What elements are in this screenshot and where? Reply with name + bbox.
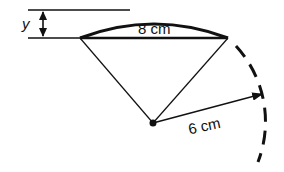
height-double-arrow-icon: [39, 11, 47, 37]
radius-right: [153, 38, 228, 123]
center-point: [150, 120, 157, 127]
radius-label: 6 cm: [187, 114, 222, 137]
radius-left: [80, 38, 153, 123]
circle-segment-diagram: y 8 cm 6 cm: [0, 0, 284, 172]
chord-label: 8 cm: [138, 20, 171, 37]
height-label: y: [21, 15, 31, 32]
dashed-circle-arc: [236, 46, 265, 162]
